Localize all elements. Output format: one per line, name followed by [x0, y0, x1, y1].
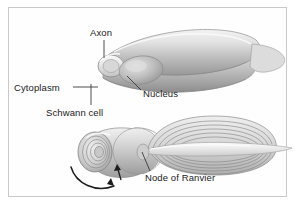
label-nucleus: Nucleus — [143, 88, 178, 99]
upper-schwann-cell-group — [98, 29, 285, 92]
figure-myelinated-nerve-fiber: Axon Cytoplasm Schwann cell Nucleus Node… — [0, 0, 298, 213]
label-node-of-ranvier: Node of Ranvier — [145, 172, 215, 183]
label-cytoplasm: Cytoplasm — [14, 82, 60, 93]
node-of-ranvier-gap — [137, 144, 149, 160]
myelinated-fiber-group — [137, 116, 292, 175]
label-schwann-cell: Schwann cell — [46, 107, 103, 118]
label-axon: Axon — [90, 27, 112, 38]
